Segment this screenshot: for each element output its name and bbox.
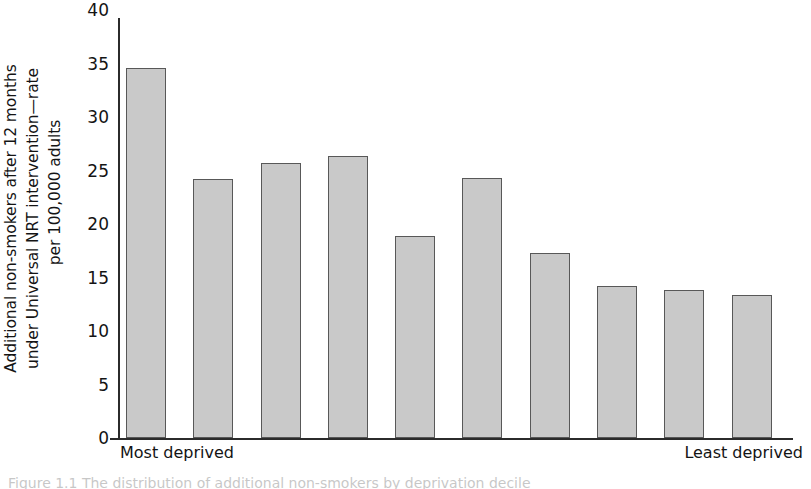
plot-area: 0510152025303540 (118, 10, 793, 440)
y-tick-label-10: 10 (87, 323, 109, 340)
bar-group (120, 10, 793, 438)
y-tick-label-15: 15 (87, 269, 109, 286)
bar-slot (255, 10, 322, 438)
bar-slot (456, 10, 523, 438)
x-axis-label-most-deprived: Most deprived (120, 444, 234, 462)
bar-slot (658, 10, 725, 438)
bar-slot (187, 10, 254, 438)
bar-slot (591, 10, 658, 438)
x-axis-line (110, 438, 793, 440)
y-tick-label-30: 30 (87, 109, 109, 126)
y-axis-title-line-1: Additional non-smokers after 12 months (0, 64, 22, 372)
bar-6[interactable] (462, 178, 502, 438)
y-tick-label-35: 35 (87, 55, 109, 72)
bar-9[interactable] (664, 290, 704, 438)
bar-slot (524, 10, 591, 438)
y-axis-title: Additional non-smokers after 12 months u… (0, 0, 70, 440)
bar-slot (389, 10, 456, 438)
bar-10[interactable] (732, 295, 772, 438)
y-tick-label-40: 40 (87, 2, 109, 19)
bar-slot (120, 10, 187, 438)
y-tick-label-25: 25 (87, 162, 109, 179)
bar-4[interactable] (328, 156, 368, 438)
x-axis-label-least-deprived: Least deprived (684, 444, 803, 462)
bar-slot (726, 10, 793, 438)
y-axis-title-line-2: under Universal NRT intervention—rate (22, 68, 44, 369)
bar-5[interactable] (395, 236, 435, 438)
bar-2[interactable] (193, 179, 233, 438)
figure-caption: Figure 1.1 The distribution of additiona… (8, 474, 803, 489)
y-tick-label-5: 5 (98, 376, 109, 393)
bar-7[interactable] (530, 253, 570, 438)
bar-3[interactable] (261, 163, 301, 438)
bar-1[interactable] (126, 68, 166, 438)
y-axis-title-line-3: per 100,000 adults (44, 120, 66, 266)
bar-slot (322, 10, 389, 438)
bar-8[interactable] (597, 286, 637, 438)
y-tick-label-0: 0 (98, 430, 109, 447)
figure-container: Additional non-smokers after 12 months u… (0, 0, 811, 489)
y-tick-label-20: 20 (87, 216, 109, 233)
